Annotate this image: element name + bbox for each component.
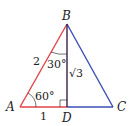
vertex-label-d: D <box>61 111 72 125</box>
angle-arc-b <box>51 52 67 54</box>
angle-label-b: 30° <box>47 58 67 71</box>
angle-label-a: 60° <box>35 90 55 103</box>
triangle-diagram: B A D C 2 1 √3 30° 60° <box>0 0 133 126</box>
vertex-label-b: B <box>61 9 71 23</box>
side-label-ad: 1 <box>40 110 47 123</box>
right-angle-mark <box>60 100 67 107</box>
side-label-ab: 2 <box>33 55 40 68</box>
vertex-label-a: A <box>5 100 15 114</box>
vertex-label-c: C <box>117 100 126 114</box>
side-label-bd: √3 <box>69 67 83 80</box>
side-bc <box>67 24 113 107</box>
